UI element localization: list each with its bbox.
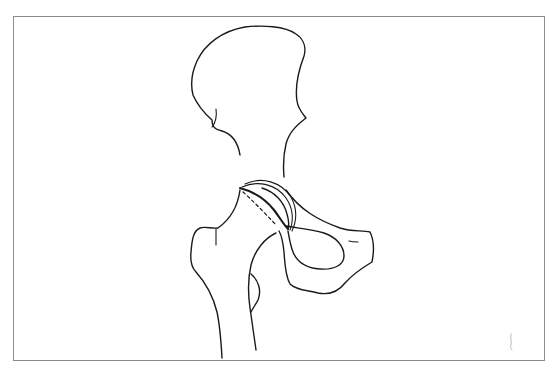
femoral-shaft-medial [249, 233, 276, 350]
lesser-trochanter [251, 274, 260, 312]
corner-mark [511, 334, 512, 350]
hip-joint-drawing [0, 0, 558, 370]
obturator-foramen [286, 226, 344, 269]
pubis-outline [279, 190, 373, 294]
femoral-head [240, 188, 289, 229]
greater-trochanter [191, 190, 240, 358]
ilium-outline [192, 26, 306, 177]
